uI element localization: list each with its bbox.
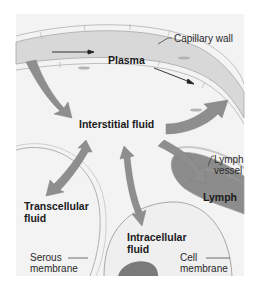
label-lymph-vessel-line1: Lymph bbox=[214, 154, 244, 165]
label-cell-membrane-line1: Cell bbox=[180, 252, 228, 263]
label-interstitial-fluid: Interstitial fluid bbox=[79, 119, 154, 131]
label-lymph-vessel-line2: vessel bbox=[214, 165, 244, 176]
label-lymph-vessel: Lymph vessel bbox=[214, 154, 244, 176]
label-capillary-wall: Capillary wall bbox=[174, 33, 233, 44]
label-intracellular-line2: fluid bbox=[127, 244, 187, 256]
label-transcellular-fluid: Transcellular fluid bbox=[24, 201, 89, 224]
label-intracellular-fluid: Intracellular fluid bbox=[127, 232, 187, 255]
label-serous-line1: Serous bbox=[30, 252, 78, 263]
label-serous-membrane: Serous membrane bbox=[30, 252, 78, 274]
label-serous-line2: membrane bbox=[30, 263, 78, 274]
label-cell-membrane-line2: membrane bbox=[180, 263, 228, 274]
label-transcellular-line1: Transcellular bbox=[24, 201, 89, 213]
label-lymph: Lymph bbox=[203, 192, 237, 204]
label-cell-membrane: Cell membrane bbox=[180, 252, 228, 274]
label-plasma: Plasma bbox=[108, 55, 145, 67]
label-intracellular-line1: Intracellular bbox=[127, 232, 187, 244]
label-transcellular-line2: fluid bbox=[24, 213, 89, 225]
